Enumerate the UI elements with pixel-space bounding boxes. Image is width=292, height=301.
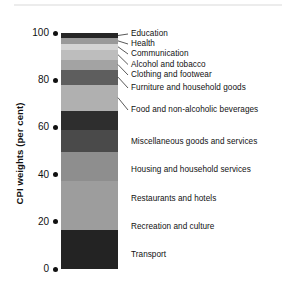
leader-line [118,77,128,88]
category-label: Restaurants and hotels [131,195,216,203]
cpi-weights-stacked-bar-chart: CPI weights (per cent) 100806040200 Educ… [0,0,292,301]
leader-line [118,55,128,65]
category-label: Alcohol and tobacco [131,61,206,69]
category-label: Health [131,40,155,48]
leader-line [118,47,128,54]
leader-line [118,41,128,44]
category-label: Miscellaneous goods and services [131,138,257,146]
leader-line [118,98,128,110]
category-label: Clothing and footwear [131,71,212,79]
category-label: Food and non-alcoholic beverages [131,106,258,114]
leader-line [118,65,128,75]
category-label: Transport [131,251,166,259]
category-label: Furniture and household goods [131,84,246,92]
category-label: Housing and household services [131,166,251,174]
category-label: Education [131,30,168,38]
category-label: Communication [131,50,189,58]
category-label: Recreation and culture [131,223,214,231]
leader-line [118,34,128,36]
